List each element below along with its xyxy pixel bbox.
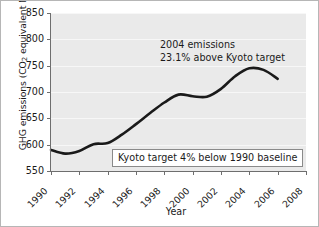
x-tick-mark <box>278 171 279 175</box>
x-axis-line <box>50 171 306 172</box>
x-tick-mark <box>51 171 52 175</box>
plot-area <box>51 13 306 171</box>
annotation-2004-emissions: 2004 emissions 23.1% above Kyoto target <box>160 39 285 64</box>
annotation-kyoto-target: Kyoto target 4% below 1990 baseline <box>112 149 303 167</box>
y-tick-label: 550 <box>26 165 44 176</box>
annotation-line-2: 23.1% above Kyoto target <box>160 52 285 65</box>
y-tick-mark <box>47 118 51 119</box>
chart-figure: GHG emissions (CO2 equivalent Mt) 550600… <box>0 0 319 227</box>
y-axis-label: GHG emissions (CO2 equivalent Mt) <box>17 0 29 154</box>
y-tick-mark <box>47 39 51 40</box>
y-tick-mark <box>47 92 51 93</box>
x-tick-mark <box>108 171 109 175</box>
y-tick-label: 800 <box>26 33 44 44</box>
y-tick-label: 850 <box>26 7 44 18</box>
x-tick-mark <box>79 171 80 175</box>
x-tick-mark <box>193 171 194 175</box>
y-tick-label: 600 <box>26 139 44 150</box>
x-tick-label: 1990 <box>25 185 50 210</box>
y-tick-label: 650 <box>26 112 44 123</box>
y-tick-mark <box>47 145 51 146</box>
y-tick-mark <box>47 13 51 14</box>
x-tick-mark <box>249 171 250 175</box>
y-tick-label: 750 <box>26 60 44 71</box>
x-tick-mark <box>306 171 307 175</box>
y-axis-label-before: GHG emissions (CO <box>17 61 28 150</box>
emissions-line-path <box>51 68 278 154</box>
x-tick-mark <box>164 171 165 175</box>
y-tick-label: 700 <box>26 86 44 97</box>
y-tick-mark <box>47 66 51 67</box>
data-series-line <box>51 13 306 171</box>
x-tick-mark <box>136 171 137 175</box>
annotation-line-1: 2004 emissions <box>160 39 285 52</box>
x-axis-label: Year <box>51 206 301 217</box>
x-tick-mark <box>221 171 222 175</box>
